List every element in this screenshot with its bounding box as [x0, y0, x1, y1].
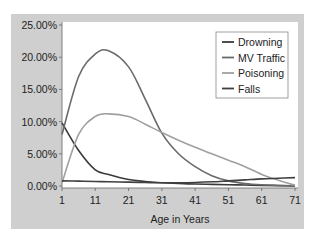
x-tick-label: 31 — [156, 194, 168, 206]
x-axis-title: Age in Years — [151, 213, 210, 225]
x-tick-label: 41 — [189, 194, 201, 206]
y-tick-label: 5.00% — [27, 148, 57, 160]
legend-label-drowning: Drowning — [238, 36, 283, 48]
x-tick-label: 21 — [123, 194, 135, 206]
y-axis: 0.00%5.00%10.00%15.00%20.00%25.00% — [21, 19, 62, 192]
y-tick-label: 25.00% — [21, 19, 57, 31]
legend: DrowningMV TrafficPoisoningFalls — [216, 32, 288, 98]
x-tick-label: 71 — [289, 194, 301, 206]
x-tick-label: 61 — [256, 194, 268, 206]
y-tick-label: 10.00% — [21, 116, 57, 128]
legend-label-mv-traffic: MV Traffic — [238, 52, 285, 64]
line-chart: 0.00%5.00%10.00%15.00%20.00%25.00% 11121… — [0, 0, 317, 239]
y-tick-label: 0.00% — [27, 180, 57, 192]
x-tick-label: 1 — [59, 194, 65, 206]
legend-label-falls: Falls — [238, 83, 260, 95]
y-tick-label: 20.00% — [21, 51, 57, 63]
x-tick-label: 51 — [223, 194, 235, 206]
y-tick-label: 15.00% — [21, 83, 57, 95]
x-axis: 111213141516171 — [59, 188, 301, 206]
x-tick-label: 11 — [90, 194, 101, 206]
legend-label-poisoning: Poisoning — [238, 67, 284, 79]
